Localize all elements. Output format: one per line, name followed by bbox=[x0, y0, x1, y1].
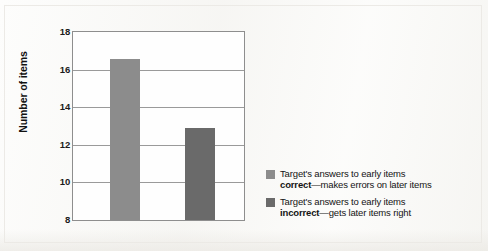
y-tick-label-8: 8 bbox=[65, 214, 70, 225]
y-tick-label-10: 10 bbox=[60, 176, 70, 187]
y-axis-title: Number of items bbox=[17, 37, 29, 147]
legend-label-1: Target's answers to early itemscorrect—m… bbox=[280, 168, 432, 191]
legend-label-line1-2: Target's answers to early items bbox=[280, 196, 405, 207]
legend-label-2: Target's answers to early itemsincorrect… bbox=[280, 196, 411, 219]
gridline-10 bbox=[73, 182, 244, 183]
plot-area bbox=[72, 31, 245, 221]
scan-bottom-shadow bbox=[0, 229, 488, 251]
gridline-14 bbox=[73, 107, 244, 108]
legend-label-line1-1: Target's answers to early items bbox=[280, 168, 405, 179]
gridline-16 bbox=[73, 70, 244, 71]
y-tick-label-16: 16 bbox=[60, 63, 70, 74]
legend-label-emphasis-1: correct bbox=[280, 179, 311, 190]
bar-correct-early-items bbox=[110, 59, 140, 220]
y-tick-label-14: 14 bbox=[60, 101, 70, 112]
legend-label-line2-1: —makes errors on later items bbox=[311, 179, 431, 190]
legend-swatch-icon-1 bbox=[266, 170, 275, 179]
gridline-12 bbox=[73, 145, 244, 146]
legend-entry-1: Target's answers to early itemscorrect—m… bbox=[266, 168, 472, 191]
bar-incorrect-early-items bbox=[185, 128, 215, 220]
legend-label-emphasis-2: incorrect bbox=[280, 207, 319, 218]
legend-entry-2: Target's answers to early itemsincorrect… bbox=[266, 196, 472, 219]
legend-label-line2-2: —gets later items right bbox=[319, 207, 411, 218]
y-tick-label-18: 18 bbox=[60, 26, 70, 37]
legend-swatch-icon-2 bbox=[266, 198, 275, 207]
chart-legend: Target's answers to early itemscorrect—m… bbox=[266, 168, 472, 224]
figure-container: Number of items 18161412108 Target's ans… bbox=[0, 0, 488, 251]
y-tick-label-12: 12 bbox=[60, 138, 70, 149]
y-axis-tick-labels: 18161412108 bbox=[48, 31, 70, 221]
